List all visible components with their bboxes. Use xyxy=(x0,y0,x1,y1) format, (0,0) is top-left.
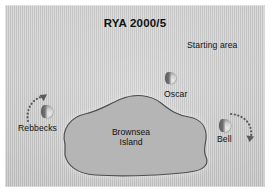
sailing-course-diagram: RYA 2000/5 Starting area Brownsea Island… xyxy=(0,0,272,196)
bell-arrow-path xyxy=(231,114,251,137)
buoy-icon-rebbecks xyxy=(41,105,53,118)
mark-label-rebbecks: Rebbecks xyxy=(18,123,57,133)
sea-background-panel: RYA 2000/5 Starting area Brownsea Island… xyxy=(5,5,265,187)
chart-title: RYA 2000/5 xyxy=(5,17,265,29)
buoy-icon-oscar xyxy=(165,72,176,84)
bell-arrow-head xyxy=(246,136,254,142)
island-name-line-1: Brownsea xyxy=(100,127,162,137)
mark-label-bell: Bell xyxy=(217,134,232,144)
mark-label-oscar: Oscar xyxy=(164,89,187,99)
island-name-label: Brownsea Island xyxy=(100,127,162,148)
starting-area-label: Starting area xyxy=(187,40,238,50)
buoy-icon-bell xyxy=(219,119,231,132)
island-name-line-2: Island xyxy=(100,137,162,147)
curved-dotted-arrow-icon-bell xyxy=(229,111,259,149)
